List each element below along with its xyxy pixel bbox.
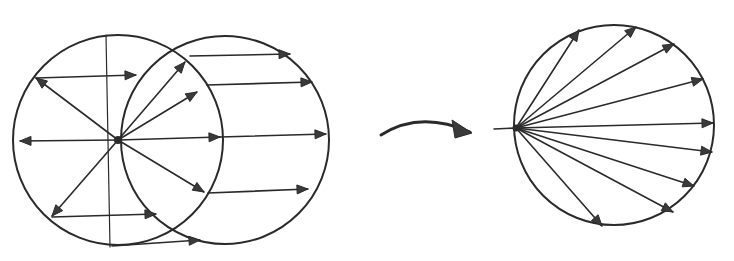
arrowhead-icon bbox=[189, 236, 200, 245]
parallel-arrow bbox=[207, 78, 312, 87]
arrowhead-icon bbox=[691, 77, 703, 86]
arrowhead-icon bbox=[20, 136, 31, 145]
curved-arrow-head-icon bbox=[452, 120, 472, 138]
arrowhead-icon bbox=[192, 182, 204, 192]
arrowhead-icon bbox=[297, 185, 308, 194]
arrowhead-icon bbox=[569, 30, 579, 42]
arrowhead-icon bbox=[185, 92, 197, 102]
parallel-arrow bbox=[36, 71, 136, 80]
arrowhead-icon bbox=[662, 44, 674, 53]
arrowhead-icon bbox=[209, 133, 220, 142]
radial-arrow bbox=[20, 136, 118, 145]
parallel-arrow bbox=[190, 50, 290, 59]
radial-arrow bbox=[36, 78, 118, 140]
right-panel-ray-fan bbox=[494, 25, 714, 226]
ray-origin-point bbox=[513, 125, 520, 132]
wavefront-diagram bbox=[0, 0, 734, 261]
arrowhead-icon bbox=[315, 130, 326, 139]
diagram-canvas: Hand-drawn sketch: wavefront of a point … bbox=[0, 0, 734, 261]
ray-arrow bbox=[516, 128, 712, 155]
parallel-arrow bbox=[208, 185, 308, 194]
parallel-arrow bbox=[52, 210, 156, 219]
arrowhead-icon bbox=[682, 178, 694, 187]
radial-arrow bbox=[118, 133, 220, 142]
source-point bbox=[114, 136, 122, 144]
left-panel-source-circles bbox=[13, 35, 329, 247]
arrowhead-icon bbox=[125, 71, 136, 80]
arrowhead-icon bbox=[702, 119, 713, 128]
arrowhead-icon bbox=[36, 78, 47, 88]
parallel-arrow bbox=[220, 130, 326, 139]
ray-arrow bbox=[516, 128, 673, 212]
transition-arrow bbox=[381, 120, 472, 138]
